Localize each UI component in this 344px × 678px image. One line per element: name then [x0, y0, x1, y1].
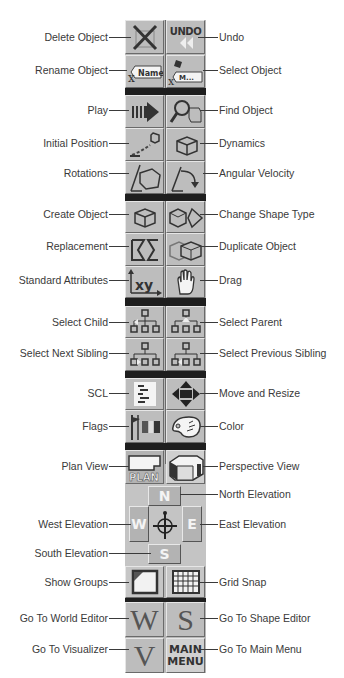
- label-duplicate-object: Duplicate Object: [219, 240, 296, 252]
- separator: [125, 371, 206, 378]
- label-west-elevation: West Elevation: [38, 518, 108, 530]
- select-next-sibling-icon: [128, 341, 162, 369]
- grid-snap-icon: [171, 569, 201, 595]
- change-shape-type-button[interactable]: [166, 201, 205, 233]
- label-select-child: Select Child: [52, 316, 108, 328]
- crosshair-icon: [152, 510, 178, 540]
- select-child-button[interactable]: [125, 306, 164, 338]
- find-object-button[interactable]: [166, 95, 205, 128]
- leader-line: [203, 70, 218, 71]
- show-groups-button[interactable]: [125, 566, 164, 598]
- label-color: Color: [219, 420, 244, 432]
- play-button[interactable]: [125, 95, 164, 128]
- change-shape-type-icon: [168, 203, 204, 231]
- label-select-previous-sibling: Select Previous Sibling: [219, 347, 326, 359]
- go-to-visualizer-button[interactable]: V: [125, 638, 164, 673]
- leader-line: [109, 649, 129, 650]
- angular-velocity-button[interactable]: [166, 161, 205, 194]
- go-to-shape-editor-button[interactable]: S: [166, 602, 205, 637]
- plan-view-button[interactable]: PLAN: [125, 450, 164, 484]
- initial-position-button[interactable]: [125, 128, 164, 161]
- leader-line: [109, 280, 129, 281]
- select-next-sibling-button[interactable]: [125, 338, 164, 371]
- leader-line: [180, 494, 218, 495]
- separator: [125, 298, 206, 306]
- replacement-button[interactable]: [125, 233, 164, 266]
- leader-line: [109, 524, 131, 525]
- svg-text:x: x: [128, 71, 135, 84]
- label-plan-view: Plan View: [61, 460, 108, 472]
- label-go-to-main-menu: Go To Main Menu: [219, 643, 302, 655]
- move-resize-button[interactable]: [166, 378, 205, 410]
- select-parent-icon: [169, 308, 203, 336]
- scl-button[interactable]: [125, 378, 164, 410]
- create-object-icon: [130, 203, 160, 231]
- separator: [125, 443, 206, 450]
- label-drag: Drag: [219, 274, 242, 286]
- rotations-button[interactable]: [125, 161, 164, 194]
- standard-attributes-icon: xy: [127, 268, 163, 296]
- label-show-groups: Show Groups: [44, 576, 108, 588]
- label-standard-attributes: Standard Attributes: [19, 274, 108, 286]
- north-elevation-button[interactable]: N: [148, 486, 181, 506]
- leader-line: [109, 353, 129, 354]
- separator: [125, 194, 206, 201]
- south-elevation-button[interactable]: S: [148, 544, 181, 564]
- main-menu-line2: MENU: [167, 656, 204, 668]
- label-play: Play: [88, 104, 108, 116]
- dynamics-button[interactable]: [166, 128, 205, 161]
- label-select-object: Select Object: [219, 64, 281, 76]
- label-dynamics: Dynamics: [219, 137, 265, 149]
- compass-center: [149, 506, 181, 544]
- label-delete-object: Delete Object: [44, 31, 108, 43]
- select-object-button[interactable]: M...x: [166, 55, 205, 88]
- label-change-shape-type: Change Shape Type: [219, 208, 315, 220]
- undo-text: UNDO: [170, 26, 201, 37]
- world-editor-icon: W: [130, 603, 158, 637]
- go-to-main-menu-button[interactable]: MAIN MENU: [166, 638, 205, 673]
- leader-line: [200, 214, 218, 215]
- duplicate-object-button[interactable]: [166, 233, 205, 266]
- leader-line: [200, 393, 218, 394]
- svg-text:xy: xy: [135, 277, 153, 293]
- perspective-view-icon: [167, 452, 204, 482]
- select-previous-sibling-icon: [169, 341, 203, 369]
- label-select-next-sibling: Select Next Sibling: [20, 347, 108, 359]
- leader-line: [200, 524, 218, 525]
- separator: [125, 88, 206, 95]
- initial-position-icon: [128, 131, 162, 159]
- create-object-button[interactable]: [125, 201, 164, 233]
- leader-line: [109, 426, 129, 427]
- label-select-parent: Select Parent: [219, 316, 282, 328]
- label-go-to-world-editor: Go To World Editor: [20, 612, 108, 624]
- select-previous-sibling-button[interactable]: [166, 338, 205, 371]
- label-flags: Flags: [82, 420, 108, 432]
- standard-attributes-button[interactable]: xy: [125, 266, 164, 298]
- angular-velocity-icon: [169, 163, 203, 193]
- play-icon: [129, 101, 161, 123]
- drag-button[interactable]: [166, 266, 205, 298]
- plan-view-icon: PLAN: [126, 452, 163, 482]
- rotations-icon: [128, 163, 162, 193]
- leader-line: [109, 393, 129, 394]
- rename-icon: Namex: [127, 60, 163, 84]
- label-scl: SCL: [88, 387, 108, 399]
- east-elevation-button[interactable]: E: [182, 506, 202, 542]
- go-to-world-editor-button[interactable]: W: [125, 602, 164, 637]
- flags-button[interactable]: [125, 410, 164, 443]
- label-find-object: Find Object: [219, 104, 273, 116]
- label-angular-velocity: Angular Velocity: [219, 167, 294, 179]
- svg-text:PLAN: PLAN: [129, 472, 159, 482]
- west-elevation-button[interactable]: W: [129, 506, 149, 542]
- main-menu-line1: MAIN: [169, 644, 202, 656]
- select-child-icon: [128, 308, 162, 336]
- label-grid-snap: Grid Snap: [219, 576, 266, 588]
- select-object-icon: M...x: [168, 58, 204, 86]
- find-object-icon: [169, 98, 203, 126]
- rename-object-button[interactable]: Namex: [125, 55, 164, 88]
- perspective-view-button[interactable]: [166, 450, 205, 484]
- flags-icon: [128, 413, 162, 441]
- dynamics-icon: [171, 131, 201, 159]
- color-palette-icon: [169, 413, 203, 441]
- leader-line: [200, 582, 218, 583]
